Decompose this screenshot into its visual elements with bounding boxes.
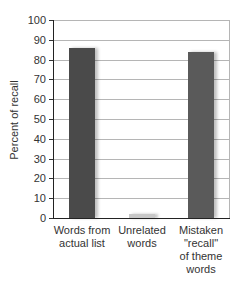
y-tick-label: 40 xyxy=(22,133,46,145)
gridline xyxy=(53,20,230,21)
y-tick-label: 90 xyxy=(22,34,46,46)
y-tick-label: 80 xyxy=(22,54,46,66)
y-tick-label: 0 xyxy=(22,212,46,224)
x-axis-line xyxy=(53,218,230,219)
y-tick-label: 100 xyxy=(22,14,46,26)
y-tick-label: 20 xyxy=(22,172,46,184)
x-category-label: Unrelatedwords xyxy=(110,224,174,250)
y-tick-label: 10 xyxy=(22,192,46,204)
plot-right-border xyxy=(229,20,230,219)
x-category-label: Mistaken"recall"of themewords xyxy=(169,224,233,276)
y-axis-line xyxy=(53,20,54,219)
x-category-label: Words fromactual list xyxy=(50,224,114,250)
bar xyxy=(188,52,214,218)
y-tick-label: 30 xyxy=(22,153,46,165)
y-tick-label: 50 xyxy=(22,113,46,125)
bar xyxy=(69,48,95,218)
gridline xyxy=(53,40,230,41)
y-tick-label: 60 xyxy=(22,93,46,105)
y-tick-label: 70 xyxy=(22,73,46,85)
y-axis-label: Percent of recall xyxy=(8,80,20,159)
